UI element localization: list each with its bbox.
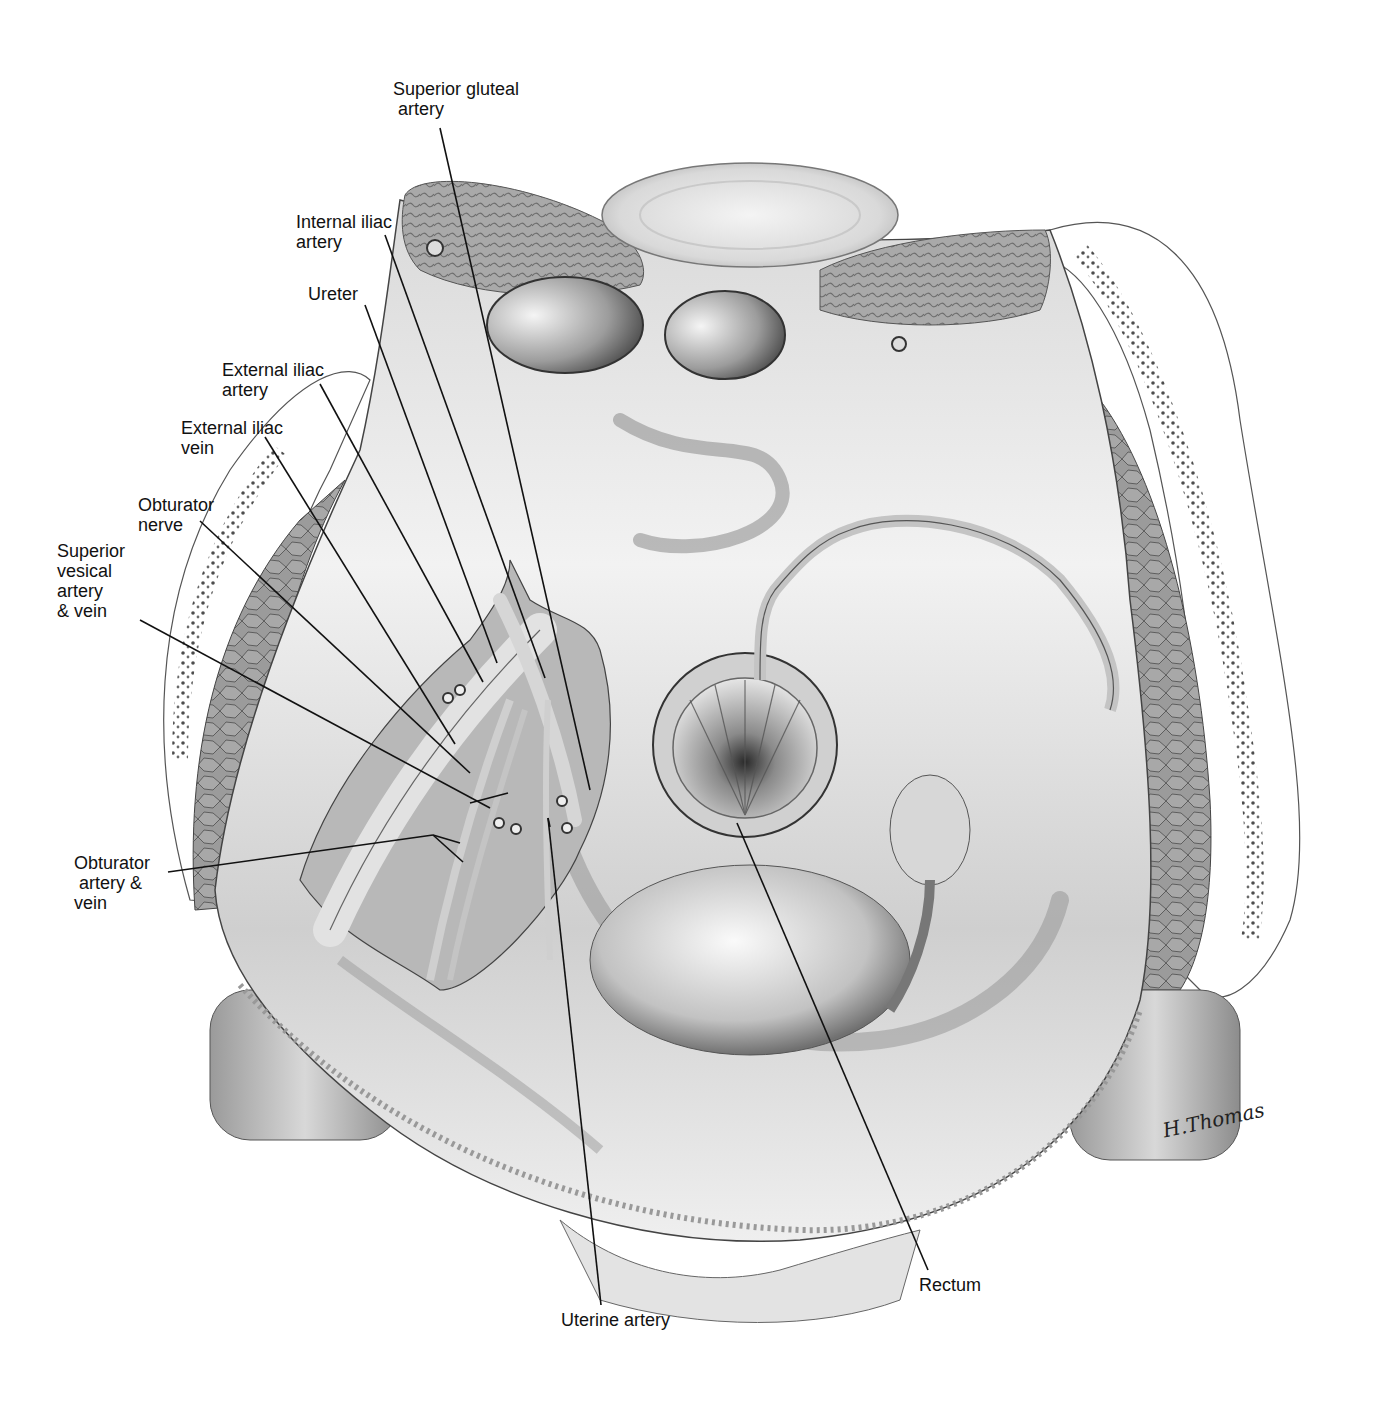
pelvis-illustration — [0, 0, 1399, 1405]
label-obturator-nerve: Obturator nerve — [138, 495, 214, 535]
uterus — [590, 865, 910, 1055]
small-vessel-right — [892, 337, 906, 351]
label-superior-gluteal-artery: Superior gluteal artery — [393, 79, 519, 119]
label-internal-iliac-artery: Internal iliac artery — [296, 212, 392, 252]
right-common-iliac-vessel — [665, 291, 785, 379]
label-obturator-artery-vein: Obturator artery & vein — [74, 853, 150, 913]
label-superior-vesical-artery-vein: Superior vesical artery & vein — [57, 541, 125, 621]
label-uterine-artery: Uterine artery — [561, 1310, 670, 1330]
label-rectum: Rectum — [919, 1275, 981, 1295]
right-ovary — [890, 775, 970, 885]
small-vessel-left — [427, 240, 443, 256]
vertebral-disc — [602, 163, 898, 267]
label-external-iliac-artery: External iliac artery — [222, 360, 324, 400]
anatomy-figure: Superior gluteal artery Internal iliac a… — [0, 0, 1399, 1405]
label-ureter: Ureter — [308, 284, 358, 304]
left-psoas-section — [402, 181, 643, 294]
left-common-iliac-vessel — [487, 277, 643, 373]
label-external-iliac-vein: External iliac vein — [181, 418, 283, 458]
